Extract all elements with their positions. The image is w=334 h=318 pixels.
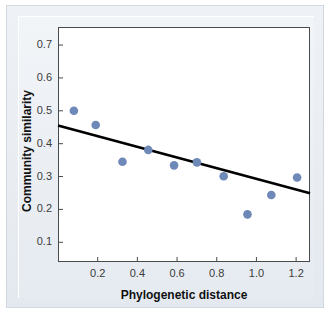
y-tick-label: 0.1 xyxy=(22,235,52,247)
data-point-marker xyxy=(193,158,202,167)
y-axis-title: Community similarity xyxy=(20,71,34,231)
data-point-marker xyxy=(91,121,100,130)
x-tick-label: 0.4 xyxy=(122,267,152,279)
figure-container: 0.20.40.60.81.01.20.10.20.30.40.50.60.7 … xyxy=(0,0,334,318)
data-point-marker xyxy=(170,161,179,170)
x-tick-label: 1.2 xyxy=(281,267,311,279)
x-tick-label: 0.6 xyxy=(162,267,192,279)
data-point-marker xyxy=(293,173,302,182)
data-point-marker xyxy=(243,210,252,219)
x-tick-label: 0.2 xyxy=(83,267,113,279)
regression-line xyxy=(58,126,310,194)
data-point-marker xyxy=(219,172,228,181)
trend-line-segment xyxy=(58,126,310,194)
x-tick-label: 1.0 xyxy=(241,267,271,279)
y-tick-label: 0.7 xyxy=(22,38,52,50)
axis-ticks xyxy=(58,45,296,262)
x-tick-label: 0.8 xyxy=(202,267,232,279)
data-point-marker xyxy=(70,107,79,116)
data-point-marker xyxy=(118,157,127,166)
data-point-marker xyxy=(144,146,153,155)
x-axis-title: Phylogenetic distance xyxy=(58,288,310,302)
data-points xyxy=(70,107,302,219)
data-point-marker xyxy=(267,191,276,200)
